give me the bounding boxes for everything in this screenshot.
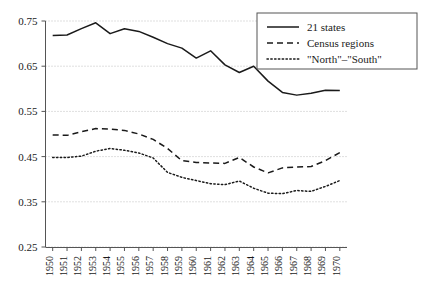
chart-legend: 21 statesCensus regions"North"–"South" (257, 13, 417, 69)
y-tick-label: 0.45 (18, 151, 38, 163)
x-tick-group: 1950195119521953195419551956195719581959… (44, 247, 342, 276)
y-tick-group: 0.750.650.550.450.350.25 (18, 15, 45, 253)
x-tick-label: 1962 (216, 256, 227, 276)
x-tick-label: 1967 (288, 256, 299, 276)
y-tick-label: 0.25 (18, 241, 38, 253)
x-tick-label: 1957 (144, 256, 155, 276)
chart-container: 0.750.650.550.450.350.25 195019511952195… (0, 0, 440, 297)
x-tick-label: 1952 (72, 256, 83, 276)
x-tick-label: 1965 (259, 256, 270, 276)
legend-label: 21 states (307, 21, 345, 33)
x-tick-label: 1964 (245, 256, 256, 276)
x-tick-label: 1950 (44, 256, 55, 276)
x-tick-label: 1961 (202, 256, 213, 276)
y-tick-label: 0.35 (18, 196, 38, 208)
x-tick-label: 1960 (187, 256, 198, 276)
x-tick-label: 1953 (87, 256, 98, 276)
series-line-dotted (53, 148, 340, 193)
x-tick-label: 1951 (58, 256, 69, 276)
x-tick-label: 1955 (115, 256, 126, 276)
x-tick-label: 1956 (130, 256, 141, 276)
y-tick-label: 0.75 (18, 15, 38, 27)
legend-label: "North"–"South" (307, 53, 382, 65)
x-tick-label: 1958 (159, 256, 170, 276)
x-tick-label: 1963 (230, 256, 241, 276)
series-line-dashed (53, 129, 340, 173)
x-tick-label: 1959 (173, 256, 184, 276)
line-chart: 0.750.650.550.450.350.25 195019511952195… (0, 0, 440, 297)
x-tick-label: 1966 (273, 256, 284, 276)
x-tick-label: 1954 (101, 256, 112, 276)
x-tick-label: 1968 (302, 256, 313, 276)
x-tick-label: 1969 (316, 256, 327, 276)
y-tick-label: 0.55 (18, 105, 38, 117)
legend-label: Census regions (307, 37, 374, 49)
y-tick-label: 0.65 (18, 60, 38, 72)
x-tick-label: 1970 (331, 256, 342, 276)
